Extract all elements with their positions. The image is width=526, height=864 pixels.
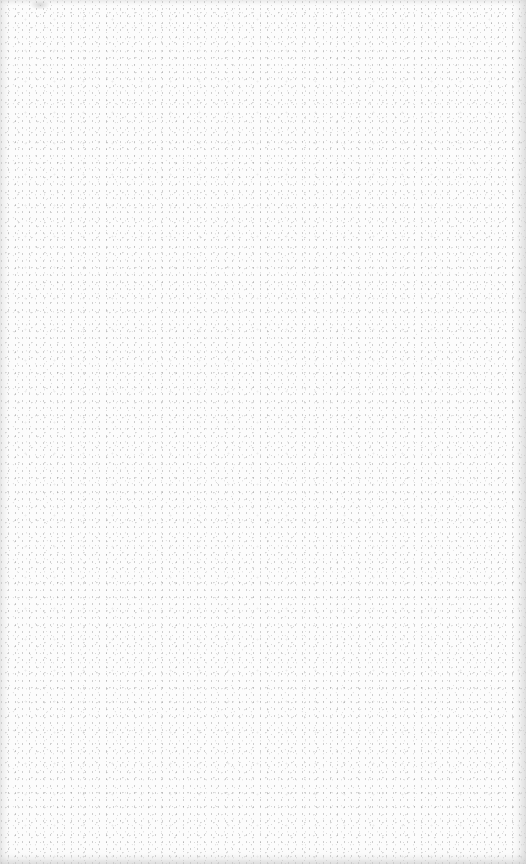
- blank-textured-surface: [0, 0, 526, 864]
- edge-vignette: [0, 0, 526, 864]
- speckle-texture-layer: [0, 0, 526, 864]
- corner-smudge: [30, 0, 50, 10]
- speckle-texture-layer: [0, 0, 526, 864]
- speckle-texture-layer: [0, 0, 526, 864]
